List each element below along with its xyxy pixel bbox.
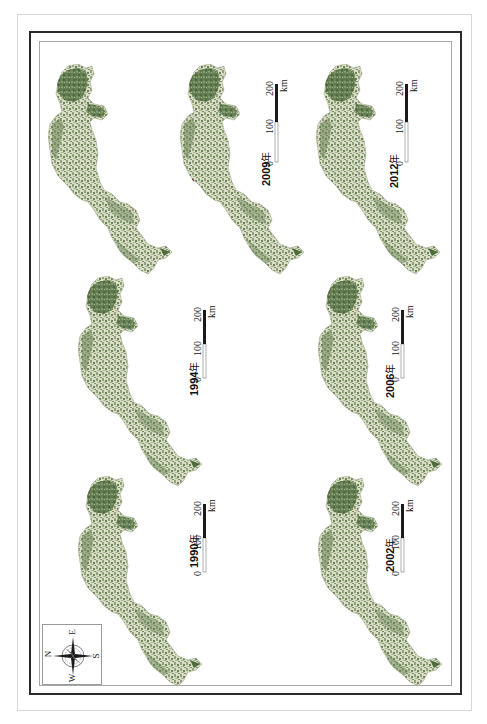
compass-north-label: N [43,651,53,658]
basin-map-1998 [48,64,178,276]
map-panel-2006: 2006年 0 100 200 km [318,276,458,488]
map-panel-2012: 2012年 0 100 200 km [316,64,456,276]
basin-map-2002 [318,476,448,688]
basin-map-2012 [316,64,446,276]
compass-west-label: W [67,674,77,683]
compass-rose: N E S W [42,624,102,685]
map-panel-2002: 2002年 0 100 200 km [318,476,458,688]
map-panel-1994: 1994年 0 100 200 km [78,276,258,488]
compass-east-label: E [67,629,77,635]
basin-map-2009 [180,64,310,276]
compass-south-label: S [91,653,101,658]
map-panel-1990: 1990年 0 100 200 km [78,476,258,688]
